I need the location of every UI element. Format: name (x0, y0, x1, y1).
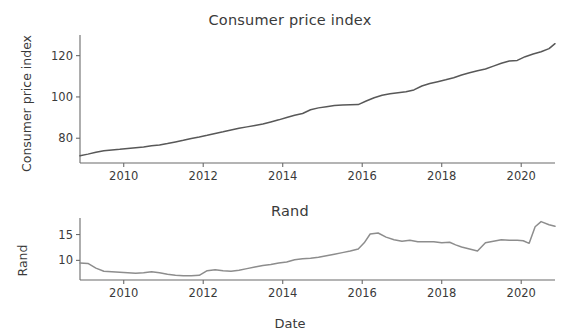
x-axis-label-date: Date (0, 316, 580, 331)
y-tick-label: 120 (51, 49, 73, 63)
x-tick-label: 2014 (268, 169, 297, 183)
plot-area-rand: 1015201020122014201620182020 (0, 196, 580, 336)
plot-area-consumer-price-index: 80100120201020122014201620182020 (0, 0, 580, 196)
y-tick-label: 100 (51, 90, 73, 104)
chart-panel-consumer-price-index: Consumer price index Consumer price inde… (0, 0, 580, 196)
x-tick-label: 2016 (348, 169, 377, 183)
data-line-rand (80, 222, 555, 276)
figure-canvas: Consumer price index Consumer price inde… (0, 0, 580, 336)
x-tick-label: 2018 (427, 286, 456, 300)
x-tick-label: 2012 (189, 286, 218, 300)
chart-panel-rand: Rand Rand 1015201020122014201620182020 (0, 196, 580, 336)
y-tick-label: 10 (58, 253, 73, 267)
x-tick-label: 2018 (427, 169, 456, 183)
x-tick-label: 2010 (109, 169, 138, 183)
x-tick-label: 2020 (507, 286, 536, 300)
y-tick-label: 15 (58, 228, 73, 242)
y-tick-label: 80 (58, 131, 73, 145)
x-tick-label: 2010 (109, 286, 138, 300)
x-tick-label: 2016 (348, 286, 377, 300)
x-tick-label: 2014 (268, 286, 297, 300)
x-tick-label: 2012 (189, 169, 218, 183)
data-line-consumer-price-index (80, 44, 555, 156)
x-tick-label: 2020 (507, 169, 536, 183)
